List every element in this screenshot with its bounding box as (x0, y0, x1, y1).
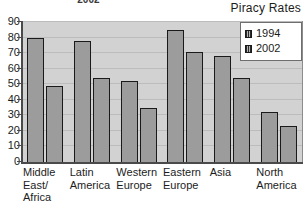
y-axis-tick-mark (17, 161, 21, 162)
legend-label-2002: 2002 (256, 43, 280, 54)
y-axis-tick-mark (17, 99, 21, 100)
y-axis-tick-mark (17, 145, 21, 146)
bar-group (115, 22, 162, 162)
bar-2002[interactable] (93, 78, 110, 162)
chart-title: Piracy Rates (231, 1, 301, 15)
y-axis-tick-mark (17, 52, 21, 53)
x-axis-category-label: Middle East/ Africa (23, 166, 76, 204)
x-axis-category-label: North America (256, 166, 307, 191)
bar-1994[interactable] (121, 81, 138, 162)
y-axis-tick-mark (17, 83, 21, 84)
y-axis-tick-mark (17, 130, 21, 131)
bar-1994[interactable] (167, 30, 184, 162)
legend-item-1994[interactable]: 1994 (245, 26, 297, 41)
legend-swatch-icon-1994 (245, 30, 252, 38)
y-axis-tick-mark (17, 68, 21, 69)
y-axis-tick-mark (17, 114, 21, 115)
legend-swatch-icon-2002 (245, 45, 252, 53)
x-axis-line (21, 162, 303, 164)
x-axis-category-label: Western Europe (116, 166, 169, 191)
x-axis-category-label: Asia (210, 166, 263, 179)
bar-2002[interactable] (233, 78, 250, 162)
bar-2002[interactable] (46, 86, 63, 162)
legend-item-2002[interactable]: 2002 (245, 41, 297, 56)
legend-label-1994: 1994 (256, 28, 280, 39)
bar-1994[interactable] (74, 41, 91, 162)
bar-group (22, 22, 69, 162)
bar-1994[interactable] (27, 38, 44, 162)
caption-bold-year: 2002 (77, 0, 99, 5)
x-axis-category-label: Eastern Europe (163, 166, 216, 191)
y-axis-line (21, 21, 23, 164)
chart-legend: 1994 2002 (240, 22, 302, 61)
y-axis-ticks: 9080706050403020100 (0, 21, 20, 163)
bar-group (162, 22, 209, 162)
bar-2002[interactable] (140, 108, 157, 162)
x-axis-category-label: Latin America (70, 166, 123, 191)
bar-group (69, 22, 116, 162)
caption-text: in 1994 to 49% in 2002. (0, 0, 102, 5)
caption-strip: in 1994 to 49% in 2002. (0, 0, 190, 9)
bar-2002[interactable] (280, 126, 297, 162)
bar-2002[interactable] (186, 52, 203, 162)
bar-1994[interactable] (261, 112, 278, 162)
x-axis-labels: Middle East/ AfricaLatin AmericaWestern … (21, 166, 303, 209)
y-axis-tick-mark (17, 21, 21, 22)
y-axis-tick-mark (17, 37, 21, 38)
bar-1994[interactable] (214, 56, 231, 162)
